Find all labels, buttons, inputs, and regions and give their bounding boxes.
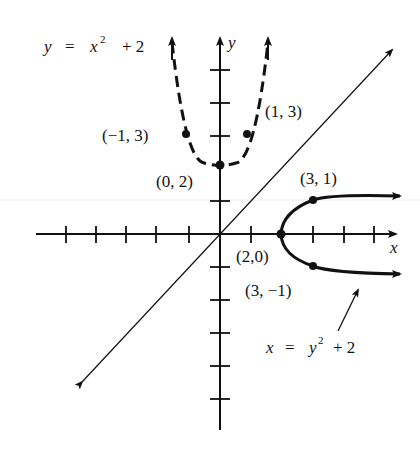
- svg-text:=: =: [65, 37, 75, 56]
- label-point-neg1-3: (−1, 3): [102, 126, 148, 145]
- equation-label-parabola-up: y = x 2 + 2: [42, 33, 144, 56]
- svg-text:+ 2: + 2: [122, 37, 144, 56]
- svg-text:2: 2: [318, 334, 324, 346]
- point-1-3: [243, 130, 251, 138]
- line-y-equals-x: [82, 50, 392, 382]
- equation-pointer-arrow-icon: [338, 290, 358, 331]
- point-3-1: [309, 196, 317, 204]
- point-0-2: [216, 161, 225, 170]
- label-point-0-2: (0, 2): [156, 172, 193, 191]
- svg-text:+ 2: + 2: [333, 338, 355, 357]
- svg-text:x: x: [265, 338, 274, 357]
- label-point-3-1: (3, 1): [300, 169, 337, 188]
- label-point-2-0: (2,0): [236, 247, 269, 266]
- x-axis: x: [36, 226, 398, 257]
- point-2-0: [277, 230, 286, 239]
- label-point-3-neg1: (3, −1): [245, 281, 291, 300]
- svg-text:y: y: [42, 37, 52, 56]
- graph-figure: x y (−1, 3) (1, 3) (0,: [0, 0, 420, 454]
- point-neg1-3: [182, 130, 190, 138]
- x-axis-label: x: [389, 238, 398, 257]
- svg-text:=: =: [285, 338, 295, 357]
- point-3-neg1: [309, 262, 317, 270]
- y-axis-label: y: [226, 33, 236, 52]
- svg-text:x: x: [89, 37, 98, 56]
- svg-text:2: 2: [100, 33, 106, 45]
- equation-label-parabola-right: x = y 2 + 2: [265, 334, 355, 357]
- svg-text:y: y: [307, 338, 317, 357]
- label-point-1-3: (1, 3): [265, 102, 302, 121]
